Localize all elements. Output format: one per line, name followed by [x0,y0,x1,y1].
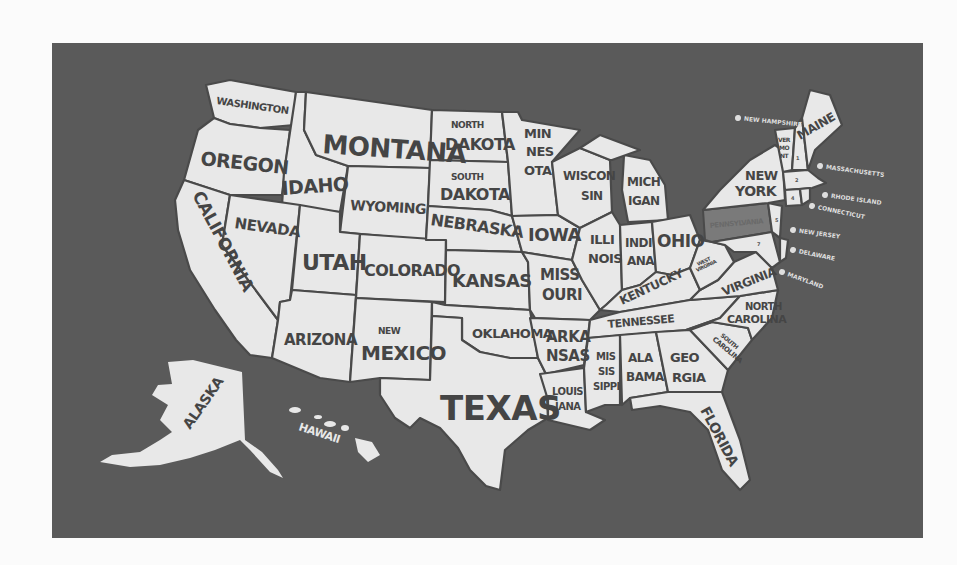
state-delaware [780,238,788,262]
label-kansas: KANSAS [452,270,532,291]
label-new-york-2: YORK [734,183,778,199]
label-mississippi-3: SIPPI [593,381,620,392]
legend-item: MARYLAND [778,267,824,290]
svg-text:NEW HAMPSHIRE: NEW HAMPSHIRE [744,115,803,128]
marker-2: 2 [795,177,799,183]
marker-5: 5 [775,217,779,223]
label-ohio: OHIO [657,231,705,251]
label-vermont-1: VER [778,136,791,143]
label-oklahoma: OKLAHOMA [472,326,553,341]
label-new-mexico-top: NEW [378,326,401,336]
usa-map: WASHINGTON OREGON CALIFORNIA IDAHO NEVAD… [0,0,957,565]
svg-text:DELAWARE: DELAWARE [798,247,836,262]
svg-text:CONNECTICUT: CONNECTICUT [817,203,866,220]
legend-item: NEW HAMPSHIRE [735,114,803,128]
label-minnesota-1: MIN [524,126,551,141]
label-indiana-1: INDI [625,236,652,250]
label-illinois-1: ILLI [590,232,614,247]
label-iowa: IOWA [528,224,582,245]
label-north-carolina-1: NORTH [745,301,782,312]
svg-text:MARYLAND: MARYLAND [787,270,825,289]
state-massachusetts [783,170,826,190]
svg-text:NEW JERSEY: NEW JERSEY [798,227,841,241]
marker-4: 4 [791,195,795,201]
label-indiana-2: ANA [627,254,655,268]
label-alabama-2: BAMA [626,370,665,384]
legend-item: DELAWARE [789,245,835,261]
label-minnesota-3: OTA [524,163,552,178]
label-michigan-2: IGAN [628,194,660,208]
label-north-carolina-2: CAROLINA [727,313,787,326]
legend-item: NEW JERSEY [789,226,841,241]
label-arkansas-1: ARKA [546,328,591,346]
label-wisconsin-1: WISCON [563,169,615,183]
label-vermont-3: NT [780,152,790,159]
marker-1: 1 [796,155,800,161]
label-utah: UTAH [302,250,367,275]
label-south-dakota-top: SOUTH [451,172,484,182]
label-arkansas-2: NSAS [546,347,590,365]
label-wisconsin-2: SIN [581,189,603,203]
svg-text:RHODE ISLAND: RHODE ISLAND [831,192,882,206]
legend-item: CONNECTICUT [808,201,866,220]
label-vermont-2: MO [779,144,789,151]
legend-item: RHODE ISLAND [822,191,882,206]
label-minnesota-2: NES [526,144,554,159]
label-colorado: COLORADO [364,261,460,280]
label-georgia-2: RGIA [672,370,706,385]
label-mississippi-1: MIS [596,351,616,362]
label-new-mexico-bottom: MEXICO [361,341,446,365]
label-louisiana-2: IANA [555,401,581,412]
svg-text:MASSACHUSETTS: MASSACHUSETTS [826,163,885,178]
label-new-york-1: NEW [745,168,778,183]
label-alabama-1: ALA [628,351,654,365]
label-mississippi-2: SIS [598,366,615,377]
label-illinois-2: NOIS [588,251,622,266]
legend-item: MASSACHUSETTS [817,162,885,178]
label-missouri-2: OURI [542,286,582,304]
label-idaho: IDAHO [281,172,350,199]
label-missouri-1: MISS [540,266,579,284]
label-north-dakota-bottom: DAKOTA [445,135,516,154]
label-arizona: ARIZONA [284,331,358,349]
label-south-dakota-bottom: DAKOTA [440,185,511,204]
state-rhode-island [800,188,810,205]
label-michigan-1: MICH [627,175,660,189]
state-new-mexico [350,298,432,382]
label-texas: TEXAS [440,388,561,428]
marker-7: 7 [757,241,761,247]
label-louisiana-1: LOUIS [552,386,583,397]
label-georgia-1: GEO [670,350,700,365]
label-north-dakota-top: NORTH [451,120,484,130]
